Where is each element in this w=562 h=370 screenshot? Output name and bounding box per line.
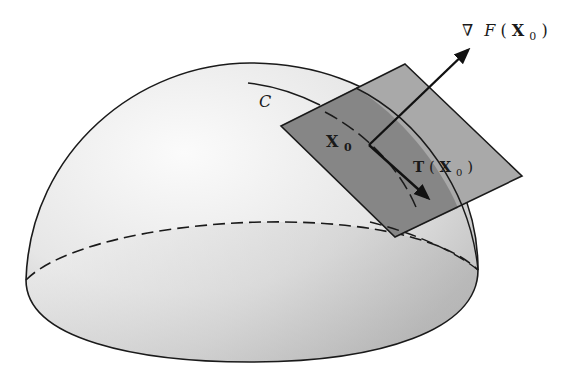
gradient-label: ∇ F ( X 0 ) <box>462 21 548 44</box>
nabla-symbol: ∇ <box>462 21 473 40</box>
diagram-canvas: ∇ F ( X 0 ) C X 0 T ( X 0 ) <box>0 0 562 370</box>
curve-c-label: C <box>259 92 271 111</box>
diagram-svg: ∇ F ( X 0 ) C X 0 T ( X 0 ) <box>0 0 562 370</box>
